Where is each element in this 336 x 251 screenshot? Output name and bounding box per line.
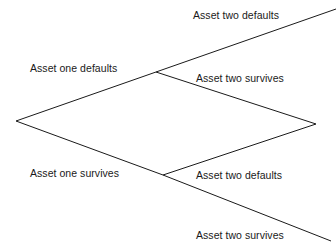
label-asset-two-defaults-lower: Asset two defaults [196,169,282,181]
label-asset-one-defaults: Asset one defaults [30,62,117,74]
label-asset-two-defaults-upper: Asset two defaults [193,9,279,21]
branch-root-to-asset-one-defaults [16,72,156,121]
tree-lines-svg [0,0,336,251]
label-asset-one-survives: Asset one survives [30,167,119,179]
label-asset-two-survives-upper: Asset two survives [196,72,284,84]
label-asset-two-survives-lower: Asset two survives [196,229,284,241]
binomial-tree-diagram: Asset two defaults Asset one defaults As… [0,0,336,251]
branch-lower-to-asset-two-defaults [163,124,316,175]
